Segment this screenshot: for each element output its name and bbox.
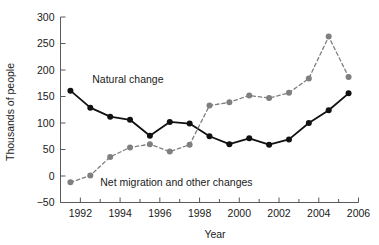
- y-axis-tick-label: 300: [37, 11, 55, 23]
- series-data-point: [187, 121, 193, 127]
- series-data-point: [246, 135, 252, 141]
- y-axis-tick-label: 150: [37, 90, 55, 102]
- series-data-point: [346, 74, 352, 80]
- x-axis-tick-label: 2002: [267, 207, 291, 219]
- series-data-point: [127, 117, 133, 123]
- label-net-migration: Net migration and other changes: [100, 176, 252, 188]
- x-axis-tick-label: 1992: [69, 207, 93, 219]
- y-axis-title: Thousands of people: [4, 63, 16, 161]
- series-data-point: [226, 99, 232, 105]
- y-axis-tick-label: 50: [43, 143, 55, 155]
- series-data-point: [107, 154, 113, 160]
- series-data-point: [67, 88, 73, 94]
- series-data-point: [107, 114, 113, 120]
- series-data-point: [326, 107, 332, 113]
- series-data-point: [306, 75, 312, 81]
- x-axis-tick-label: 1994: [108, 207, 132, 219]
- y-axis-tick-label: −50: [37, 196, 55, 208]
- y-axis-tick-label: 100: [37, 117, 55, 129]
- series-data-point: [167, 149, 173, 155]
- population-change-line-chart: 300250200150100500−50 199219941996199820…: [0, 0, 379, 245]
- series-data-point: [67, 179, 73, 185]
- series-data-point: [167, 119, 173, 125]
- series-data-point: [147, 141, 153, 147]
- x-axis-tick-label: 1998: [188, 207, 212, 219]
- series-data-point: [87, 172, 93, 178]
- series-data-point: [127, 144, 133, 150]
- x-axis-tick-label: 1996: [148, 207, 172, 219]
- series-data-point: [346, 90, 352, 96]
- x-axis-title: Year: [204, 228, 226, 240]
- y-axis-tick-label: 250: [37, 37, 55, 49]
- series-data-point: [266, 142, 272, 148]
- series-data-point: [147, 133, 153, 139]
- series-data-point: [246, 92, 252, 98]
- series-data-point: [207, 103, 213, 109]
- series-data-point: [286, 90, 292, 96]
- x-axis-tick-label: 2006: [347, 207, 371, 219]
- chart-canvas: 300250200150100500−50 199219941996199820…: [0, 0, 379, 245]
- series-data-point: [187, 142, 193, 148]
- label-natural-change: Natural change: [92, 73, 163, 85]
- series-data-point: [87, 105, 93, 111]
- series-data-point: [306, 120, 312, 126]
- series-data-point: [326, 34, 332, 40]
- series-data-point: [286, 136, 292, 142]
- y-axis-tick-label: 0: [49, 170, 55, 182]
- series-data-point: [226, 141, 232, 147]
- x-axis-tick-label: 2004: [307, 207, 331, 219]
- series-data-point: [266, 95, 272, 101]
- series-data-point: [207, 133, 213, 139]
- y-axis-tick-label: 200: [37, 64, 55, 76]
- x-axis-tick-label: 2000: [228, 207, 252, 219]
